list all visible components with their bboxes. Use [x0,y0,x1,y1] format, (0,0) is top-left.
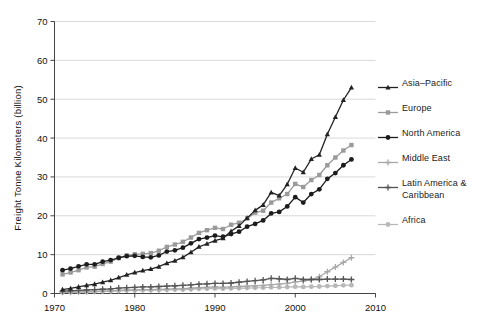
line-marker-circle-icon [378,216,398,227]
data-point [253,222,258,227]
data-point [188,282,194,288]
data-point [261,209,265,213]
data-point [156,284,162,290]
data-point [68,266,73,271]
line-marker-triangle-icon [378,79,398,90]
gridlines [55,22,376,294]
data-point [205,228,209,232]
data-point [301,284,306,289]
data-point [285,182,290,187]
line-marker-plus-icon [378,179,398,190]
data-point [348,255,354,261]
data-point [333,114,338,119]
data-point [341,283,346,288]
legend-item-africa[interactable]: Africa [378,215,480,227]
data-point [293,182,297,186]
data-point [221,227,225,231]
data-point [349,143,353,147]
data-point [92,262,97,267]
y-axis-title: Freight Tonne Kilometers (billion) [12,85,23,231]
data-point [116,255,121,260]
data-point [349,157,354,162]
data-point [261,218,266,223]
data-point [341,163,346,168]
data-point [188,250,193,255]
legend-item-label: Europe [402,103,432,115]
data-point [149,251,153,255]
legend-item-north-america[interactable]: North America [378,128,480,140]
legend-item-asia-pacific[interactable]: Asia–Pacific [378,78,480,90]
data-point [108,258,113,263]
data-point [181,240,185,244]
data-point [317,187,322,192]
data-point [333,155,337,159]
data-point [165,245,169,249]
data-point [237,229,242,234]
series-line [63,159,352,270]
data-point [340,276,346,282]
data-point [212,280,218,286]
series-line [63,88,352,290]
data-point [180,282,186,288]
data-point [284,277,290,283]
data-point [301,200,306,205]
data-point [253,208,258,213]
data-point [386,110,390,114]
y-tick-label: 50 [37,94,48,105]
data-point [292,275,298,281]
y-axis-ticks: 010203040506070 [37,16,55,299]
data-point [196,281,202,287]
data-point [228,280,234,286]
data-point [349,85,354,90]
data-point [385,160,391,166]
data-point [197,237,202,242]
data-point [269,211,274,216]
data-point [293,284,298,289]
legend-item-label: Middle East [402,153,450,165]
chart-figure: 010203040506070 19701980199020002010 Fre… [0,0,480,335]
data-point [252,278,258,284]
data-point [324,276,330,282]
data-point [157,249,161,253]
data-point [309,284,314,289]
data-point [268,275,274,281]
axis-lines [55,22,376,294]
data-point [277,210,282,215]
line-marker-circle-icon [378,129,398,140]
data-point [385,185,391,191]
legend-item-latin-america-caribbean[interactable]: Latin America & Caribbean [378,178,480,202]
data-point [245,224,250,229]
data-point [333,283,338,288]
data-point [333,171,338,176]
data-point [325,163,329,167]
legend-item-europe[interactable]: Europe [378,103,480,115]
data-point [269,200,273,204]
y-tick-label: 40 [37,133,48,144]
data-point [164,283,170,289]
data-point [140,255,145,260]
data-point [308,277,314,283]
legend-item-label: Africa [402,215,426,227]
legend-item-label: North America [402,128,460,140]
y-tick-label: 30 [37,171,48,182]
legend-item-label: Latin America & Caribbean [402,178,467,201]
x-tick-label: 1980 [124,302,145,313]
data-point [317,152,322,157]
legend-item-middle-east[interactable]: Middle East [378,153,480,165]
data-point [173,242,177,246]
data-point [205,235,210,240]
data-point [132,253,137,258]
data-point [276,276,282,282]
data-point [197,231,201,235]
data-point [220,280,226,286]
y-tick-label: 10 [37,249,48,260]
data-point [260,277,266,283]
data-point [172,248,177,253]
data-point [332,276,338,282]
x-tick-label: 2010 [365,302,386,313]
data-point [293,195,298,200]
data-point [348,277,354,283]
data-point [386,222,391,227]
data-series-group [60,85,355,296]
y-tick-label: 20 [37,210,48,221]
